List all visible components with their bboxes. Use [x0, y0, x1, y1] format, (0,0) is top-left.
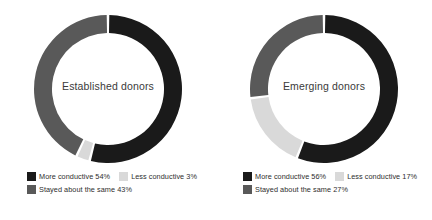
donut-svg-established — [33, 14, 183, 164]
legend-item-less-conductive[interactable]: Less conductive 17% — [335, 172, 417, 181]
legend-item-stayed-same[interactable]: Stayed about the same 27% — [243, 185, 348, 194]
legend-label-more-conductive: More conductive 56% — [255, 172, 326, 181]
legend-row: More conductive 56% Less conductive 17% — [243, 172, 429, 181]
legend-swatch-less-conductive — [335, 172, 344, 181]
legend-row: More conductive 54% Less conductive 3% — [27, 172, 213, 181]
legend-swatch-less-conductive — [119, 172, 128, 181]
legend-row: Stayed about the same 43% — [27, 185, 213, 194]
donut-segment[interactable] — [34, 15, 107, 155]
donut-segment[interactable] — [251, 97, 303, 157]
donut-svg-emerging — [249, 14, 399, 164]
legend-swatch-more-conductive — [243, 172, 252, 181]
legend-emerging-donors: More conductive 56% Less conductive 17% … — [243, 172, 429, 198]
legend-established-donors: More conductive 54% Less conductive 3% S… — [27, 172, 213, 198]
chart-panel-established-donors: Established donors More conductive 54% L… — [0, 0, 216, 220]
legend-swatch-stayed-same — [243, 185, 252, 194]
donut-segment[interactable] — [91, 15, 182, 163]
legend-label-more-conductive: More conductive 54% — [39, 172, 110, 181]
legend-swatch-stayed-same — [27, 185, 36, 194]
legend-row: Stayed about the same 27% — [243, 185, 429, 194]
legend-swatch-more-conductive — [27, 172, 36, 181]
legend-item-stayed-same[interactable]: Stayed about the same 43% — [27, 185, 132, 194]
legend-item-more-conductive[interactable]: More conductive 54% — [27, 172, 110, 181]
legend-item-less-conductive[interactable]: Less conductive 3% — [119, 172, 197, 181]
donut-segment[interactable] — [250, 15, 323, 97]
donut-charts-container: Established donors More conductive 54% L… — [0, 0, 432, 220]
legend-label-less-conductive: Less conductive 3% — [131, 172, 197, 181]
legend-label-stayed-same: Stayed about the same 43% — [39, 185, 132, 194]
chart-panel-emerging-donors: Emerging donors More conductive 56% Less… — [216, 0, 432, 220]
legend-label-stayed-same: Stayed about the same 27% — [255, 185, 348, 194]
legend-label-less-conductive: Less conductive 17% — [347, 172, 417, 181]
donut-chart-established-donors: Established donors — [0, 0, 216, 166]
legend-item-more-conductive[interactable]: More conductive 56% — [243, 172, 326, 181]
donut-segment[interactable] — [298, 15, 398, 163]
donut-chart-emerging-donors: Emerging donors — [216, 0, 432, 166]
